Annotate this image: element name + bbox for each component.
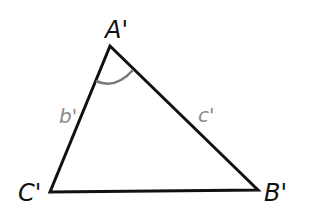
vertex-label-b: B' bbox=[264, 179, 287, 207]
triangle-diagram: A' C' B' b' c' bbox=[0, 0, 312, 215]
triangle bbox=[50, 46, 258, 192]
vertex-label-a: A' bbox=[103, 16, 128, 44]
side-label-c: c' bbox=[198, 103, 215, 127]
angle-arc-a bbox=[96, 70, 133, 84]
vertex-label-c: C' bbox=[18, 179, 41, 207]
side-label-b: b' bbox=[59, 104, 77, 128]
